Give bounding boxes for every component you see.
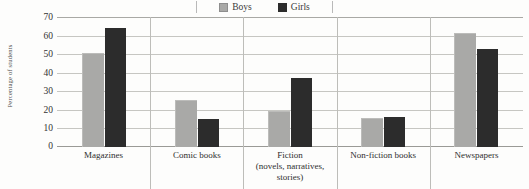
bar-boys-magazines (82, 53, 104, 147)
bar-girls-comic-books (198, 119, 219, 147)
x-label-line: Fiction (277, 150, 303, 160)
chart-legend: Boys Girls (0, 0, 529, 14)
x-label-fiction: Fiction (novels, narratives, stories) (243, 150, 336, 189)
y-axis-title: Percentage of students (6, 0, 13, 30)
y-tick-label: 60 (44, 31, 54, 41)
x-label-line: stories) (245, 172, 334, 183)
x-label-line: Comic books (173, 150, 221, 160)
x-label-line: Magazines (84, 150, 123, 160)
legend-label-girls: Girls (291, 2, 310, 12)
x-label-line: (novels, narratives, (245, 161, 334, 172)
legend-item-boys: Boys (219, 2, 252, 12)
legend-item-girls: Girls (278, 2, 310, 12)
plot-area: 70 60 50 40 30 20 10 0 (57, 17, 523, 147)
bar-boys-newspapers (454, 33, 476, 147)
y-tick-label: 40 (44, 68, 54, 78)
bar-group-magazines (57, 17, 150, 147)
y-tick-label: 20 (44, 105, 54, 115)
bar-boys-non-fiction-books (361, 118, 383, 147)
y-tick-label: 0 (48, 141, 53, 151)
x-label-comic-books: Comic books (150, 150, 243, 189)
x-label-line: Non-fiction books (350, 150, 416, 160)
bar-group-fiction (243, 17, 336, 147)
x-label-line: Newspapers (454, 150, 498, 160)
bar-boys-comic-books (175, 100, 197, 147)
x-label-newspapers: Newspapers (430, 150, 523, 189)
y-tick-label: 50 (44, 49, 54, 59)
bar-girls-newspapers (477, 49, 498, 147)
bar-girls-fiction (291, 78, 312, 147)
y-tick-label: 70 (44, 12, 54, 22)
x-label-magazines: Magazines (57, 150, 150, 189)
y-tick-label: 30 (44, 86, 54, 96)
bar-girls-magazines (105, 28, 126, 147)
legend-label-boys: Boys (232, 2, 252, 12)
bar-chart: Boys Girls Percentage of students 70 60 … (0, 0, 529, 189)
square-swatch-icon (278, 3, 287, 12)
bar-groups (57, 17, 523, 147)
y-axis-title-text: Percentage of students (6, 30, 13, 122)
legend-divider-left (196, 1, 197, 13)
legend-divider-right (332, 1, 333, 13)
y-tick-label: 10 (44, 123, 54, 133)
square-swatch-icon (219, 3, 228, 12)
bar-group-comic-books (150, 17, 243, 147)
x-label-non-fiction-books: Non-fiction books (337, 150, 430, 189)
x-axis-labels: Magazines Comic books Fiction (novels, n… (57, 150, 523, 189)
bar-group-non-fiction-books (337, 17, 430, 147)
bar-group-newspapers (430, 17, 523, 147)
bar-girls-non-fiction-books (384, 117, 405, 147)
bar-boys-fiction (268, 111, 290, 147)
